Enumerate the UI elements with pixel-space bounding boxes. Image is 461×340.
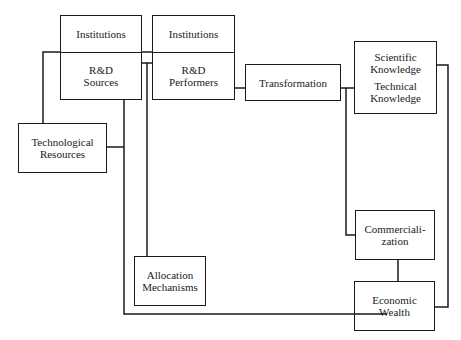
commercialization-label-line1: Commerciali-: [364, 223, 425, 235]
transformation-label: Transformation: [259, 77, 327, 89]
rd-performers-label-line1: R&D: [182, 64, 206, 76]
knowledge-label-line4: Knowledge: [370, 92, 421, 104]
node-economic-wealth: Economic Wealth: [354, 281, 435, 331]
node-rd-sources: Institutions R&D Sources: [60, 15, 142, 100]
knowledge-label-line3: Technical: [374, 80, 417, 92]
connector-techres-to-sources: [43, 52, 60, 124]
rd-performers-label-line2: Performers: [169, 76, 218, 88]
wealth-label-line2: Wealth: [379, 306, 410, 318]
rd-performers-institutions-label: Institutions: [169, 28, 219, 40]
rd-performers-main-section: R&D Performers: [153, 53, 234, 99]
node-technological-resources: Technological Resources: [18, 123, 107, 173]
wealth-label-line1: Economic: [372, 294, 417, 306]
allocation-label-line2: Mechanisms: [142, 281, 198, 293]
rd-sources-institutions-section: Institutions: [61, 16, 141, 53]
knowledge-label-line1: Scientific: [374, 51, 416, 63]
node-commercialization: Commerciali- zation: [355, 210, 435, 260]
node-transformation: Transformation: [245, 64, 341, 101]
techres-label-line2: Resources: [40, 148, 85, 160]
techres-label-line1: Technological: [31, 136, 93, 148]
rd-sources-main-section: R&D Sources: [61, 53, 141, 99]
allocation-label-line1: Allocation: [147, 269, 193, 281]
node-knowledge: Scientific Knowledge Technical Knowledge: [354, 41, 437, 114]
node-allocation-mechanisms: Allocation Mechanisms: [134, 256, 206, 306]
rd-performers-institutions-section: Institutions: [153, 16, 234, 53]
diagram-canvas: Institutions R&D Sources Institutions R&…: [0, 0, 461, 340]
rd-sources-institutions-label: Institutions: [76, 28, 126, 40]
node-rd-performers: Institutions R&D Performers: [152, 15, 235, 100]
rd-sources-label-line1: R&D: [89, 64, 113, 76]
knowledge-label-line2: Knowledge: [370, 63, 421, 75]
rd-sources-label-line2: Sources: [84, 76, 119, 88]
commercialization-label-line2: zation: [382, 235, 409, 247]
